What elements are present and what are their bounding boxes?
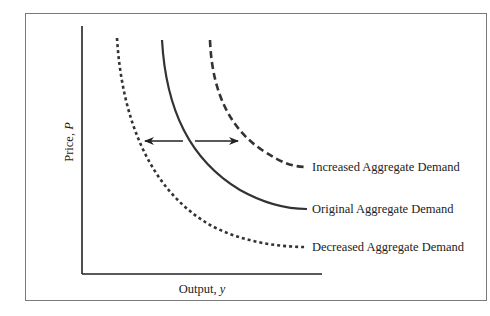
y-axis-label: Price, P xyxy=(62,122,76,162)
label-increased-demand: Increased Aggregate Demand xyxy=(312,160,461,174)
label-original-demand: Original Aggregate Demand xyxy=(312,202,454,216)
decreased-demand-curve xyxy=(117,38,307,247)
label-decreased-demand: Decreased Aggregate Demand xyxy=(312,240,465,254)
increased-demand-curve xyxy=(210,40,307,167)
x-axis-label: Output, y xyxy=(179,282,226,296)
axes xyxy=(82,26,322,274)
aggregate-demand-diagram: Increased Aggregate Demand Original Aggr… xyxy=(0,0,490,316)
